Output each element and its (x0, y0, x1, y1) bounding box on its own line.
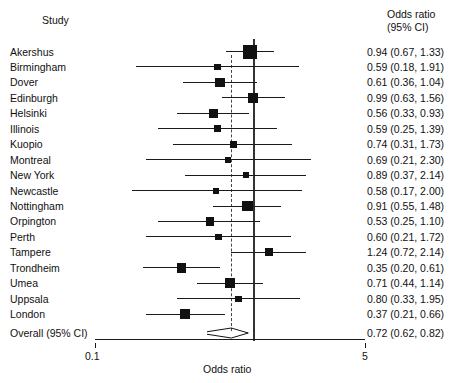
confidence-interval-line (143, 267, 220, 268)
study-point-estimate-marker (248, 93, 258, 103)
confidence-interval-line (158, 221, 260, 222)
odds-ratio-value: 0.69 (0.21, 2.30) (367, 154, 444, 166)
study-point-estimate-marker (214, 64, 220, 70)
odds-ratio-column-header-line1: Odds ratio (387, 8, 435, 20)
study-label: Montreal (10, 154, 51, 166)
study-label: Helsinki (10, 107, 47, 119)
study-label: Kuopio (10, 138, 43, 150)
study-label: Dover (10, 76, 38, 88)
study-point-estimate-marker (215, 234, 222, 241)
odds-ratio-value: 0.53 (0.25, 1.10) (367, 215, 444, 227)
odds-ratio-value: 0.58 (0.17, 2.00) (367, 185, 444, 197)
odds-ratio-value: 0.60 (0.21, 1.72) (367, 231, 444, 243)
study-label: Edinburgh (10, 92, 58, 104)
confidence-interval-line (231, 252, 306, 253)
odds-ratio-value: 0.59 (0.18, 1.91) (367, 61, 444, 73)
confidence-interval-line (226, 51, 273, 52)
confidence-interval-line (146, 159, 311, 160)
study-point-estimate-marker (215, 78, 225, 88)
study-label: Perth (10, 231, 35, 243)
odds-ratio-value: 0.71 (0.44, 1.14) (367, 277, 444, 289)
study-label: Illinois (10, 123, 39, 135)
study-label: Nottingham (10, 200, 64, 212)
confidence-interval-line (158, 128, 276, 129)
x-axis-tick-label-high: 5 (362, 350, 368, 362)
odds-ratio-value: 0.99 (0.63, 1.56) (367, 92, 444, 104)
study-point-estimate-marker (214, 125, 221, 132)
study-label: London (10, 308, 45, 320)
study-point-estimate-marker (213, 188, 219, 194)
odds-ratio-value: 0.80 (0.33, 1.95) (367, 293, 444, 305)
confidence-interval-line (213, 206, 281, 207)
x-axis-tick-label-low: 0.1 (85, 350, 100, 362)
odds-ratio-value: 0.91 (0.55, 1.48) (367, 200, 444, 212)
forest-plot-figure: Study Odds ratio (95% CI) AkershusBirmin… (0, 0, 463, 383)
odds-ratio-value: 0.37 (0.21, 0.66) (367, 308, 444, 320)
x-axis-tick-low (95, 343, 96, 348)
overall-value: 0.72 (0.62, 0.82) (367, 327, 444, 339)
confidence-interval-line (177, 113, 249, 114)
confidence-interval-line (183, 82, 256, 83)
confidence-interval-line (132, 190, 302, 191)
study-label: Newcastle (10, 185, 58, 197)
summary-effect-line (231, 55, 232, 331)
confidence-interval-line (146, 236, 291, 237)
x-axis-title: Odds ratio (203, 363, 251, 375)
confidence-interval-line (222, 97, 285, 98)
odds-ratio-value: 0.61 (0.36, 1.04) (367, 76, 444, 88)
confidence-interval-line (136, 66, 299, 67)
study-label: Tampere (10, 246, 51, 258)
confidence-interval-line (173, 144, 292, 145)
study-point-estimate-marker (177, 263, 187, 273)
study-label: Akershus (10, 46, 54, 58)
confidence-interval-line (197, 283, 263, 284)
study-point-estimate-marker (209, 109, 218, 118)
study-point-estimate-marker (225, 157, 231, 163)
study-point-estimate-marker (206, 217, 214, 225)
study-point-estimate-marker (225, 278, 235, 288)
x-axis-tick-high (365, 343, 366, 348)
study-label: New York (10, 169, 54, 181)
study-label: Birmingham (10, 61, 66, 73)
study-point-estimate-marker (265, 248, 273, 256)
odds-ratio-value: 1.24 (0.72, 2.14) (367, 246, 444, 258)
study-point-estimate-marker (243, 45, 257, 59)
odds-ratio-column-header-line2: (95% CI) (387, 21, 428, 33)
null-effect-line (253, 39, 254, 341)
odds-ratio-value: 0.56 (0.33, 0.93) (367, 107, 444, 119)
overall-label: Overall (95% CI) (10, 327, 88, 339)
study-point-estimate-marker (180, 309, 190, 319)
x-axis-line (95, 339, 365, 340)
study-label: Umea (10, 277, 38, 289)
odds-ratio-value: 0.59 (0.25, 1.39) (367, 123, 444, 135)
study-point-estimate-marker (242, 201, 253, 212)
study-label: Trondheim (10, 262, 60, 274)
study-label: Orpington (10, 215, 56, 227)
confidence-interval-line (177, 298, 300, 299)
study-column-header: Study (42, 14, 69, 26)
study-point-estimate-marker (230, 141, 237, 148)
study-point-estimate-marker (235, 296, 241, 302)
confidence-interval-line (185, 175, 306, 176)
overall-diamond-marker (207, 326, 254, 340)
study-label: Uppsala (10, 293, 49, 305)
odds-ratio-value: 0.74 (0.31, 1.73) (367, 138, 444, 150)
odds-ratio-value: 0.89 (0.37, 2.14) (367, 169, 444, 181)
study-point-estimate-marker (243, 172, 250, 179)
confidence-interval-line (146, 314, 225, 315)
odds-ratio-value: 0.35 (0.20, 0.61) (367, 262, 444, 274)
odds-ratio-value: 0.94 (0.67, 1.33) (367, 46, 444, 58)
